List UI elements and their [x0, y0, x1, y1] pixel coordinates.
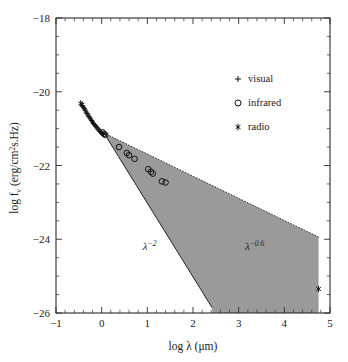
y-tick-label: −18: [33, 12, 51, 24]
x-tick-label: 1: [145, 317, 151, 329]
y-tick-label: −26: [33, 307, 51, 319]
legend-label-radio: radio: [248, 121, 270, 132]
x-tick-label: 0: [99, 317, 105, 329]
x-tick-label: 3: [236, 317, 242, 329]
y-tick-label: −24: [33, 233, 51, 245]
y-tick-label: −20: [33, 86, 51, 98]
legend-label-infrared: infrared: [248, 97, 282, 108]
figure-container: −1012345 −18−20−22−24−26 λ−2λ−0.6 visual…: [0, 0, 348, 362]
x-tick-label: −1: [50, 317, 62, 329]
x-tick-label: 5: [327, 317, 333, 329]
x-axis-label: log λ (μm): [169, 340, 218, 353]
y-tick-label: −22: [33, 160, 50, 172]
x-tick-label: 2: [190, 317, 196, 329]
x-tick-label: 4: [282, 317, 288, 329]
legend-label-visual: visual: [248, 73, 273, 84]
sed-plot: −1012345 −18−20−22−24−26 λ−2λ−0.6 visual…: [0, 0, 348, 362]
